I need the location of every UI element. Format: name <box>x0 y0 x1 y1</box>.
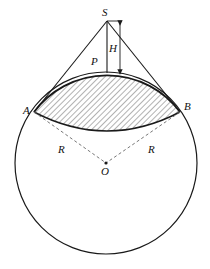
label-p: P <box>90 55 98 67</box>
label-b: B <box>184 100 191 112</box>
label-r-right: R <box>147 143 155 155</box>
label-s: S <box>102 6 108 18</box>
geometry-diagram: S H P A B R R O <box>0 0 210 269</box>
label-h: H <box>108 42 118 54</box>
label-o: O <box>101 165 109 177</box>
shaded-lens-region <box>34 75 180 131</box>
label-a: A <box>22 104 30 116</box>
label-r-left: R <box>57 143 65 155</box>
